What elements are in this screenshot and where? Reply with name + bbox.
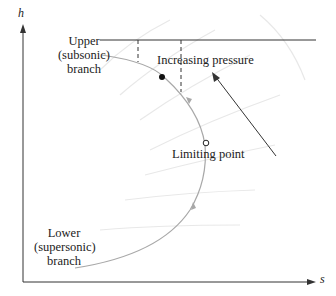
lower-branch-label: Lower (supersonic) branch: [34, 226, 94, 268]
limiting-point-label: Limiting point: [172, 147, 245, 161]
fanno-curve: [75, 55, 205, 268]
lower-branch-line1: Lower: [34, 226, 94, 240]
limiting-point-marker: [203, 140, 209, 146]
increasing-pressure-label: Increasing pressure: [157, 53, 254, 67]
s-axis-label: s: [320, 272, 325, 287]
h-axis-arrowhead-icon: [20, 24, 26, 33]
upper-branch-line1: Upper: [56, 34, 112, 48]
h-axis-label: h: [18, 6, 24, 21]
lower-branch-line3: branch: [34, 254, 94, 268]
state-point-filled: [159, 74, 165, 80]
upper-branch-label: Upper (subsonic) branch: [56, 34, 112, 76]
upper-branch-line2: (subsonic): [56, 48, 112, 62]
lower-branch-line2: (supersonic): [34, 240, 94, 254]
isobar-lines: [100, 15, 305, 230]
upper-branch-line3: branch: [56, 62, 112, 76]
s-axis-arrowhead-icon: [307, 279, 316, 285]
